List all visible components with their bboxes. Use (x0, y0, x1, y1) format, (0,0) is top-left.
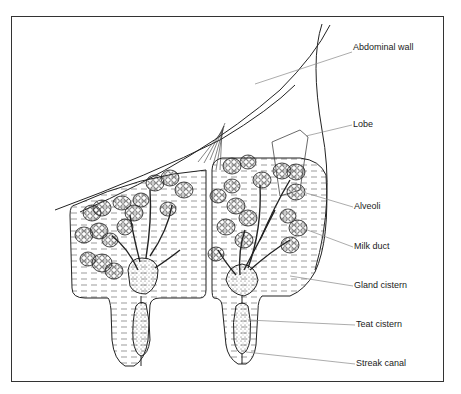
label-lobe: Lobe (353, 119, 373, 129)
left-quarter (70, 165, 206, 366)
right-quarter (208, 130, 327, 364)
label-alveoli: Alveoli (354, 201, 381, 211)
label-gland-cistern: Gland cistern (354, 280, 407, 290)
label-abdominal-wall: Abdominal wall (353, 42, 414, 52)
udder-illustration (0, 0, 461, 394)
label-teat-cistern: Teat cistern (356, 319, 402, 329)
label-streak-canal: Streak canal (356, 358, 406, 368)
label-milk-duct: Milk duct (354, 241, 390, 251)
